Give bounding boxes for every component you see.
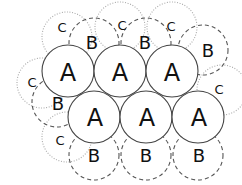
label-b-6: B bbox=[140, 145, 152, 166]
label-b-4: B bbox=[52, 93, 64, 114]
label-a-1: A bbox=[60, 59, 77, 87]
label-a-3: A bbox=[164, 59, 181, 87]
label-c-6: C bbox=[214, 82, 223, 97]
label-a-2: A bbox=[112, 59, 129, 87]
label-c-2: C bbox=[117, 18, 126, 33]
label-a-6: A bbox=[191, 104, 208, 132]
label-c-5: C bbox=[55, 133, 64, 148]
label-c-1: C bbox=[57, 20, 66, 35]
close-packing-diagram: CCCCCCBBBBBBBAAAAAA bbox=[0, 0, 242, 185]
label-b-2: B bbox=[139, 32, 151, 53]
label-a-4: A bbox=[87, 104, 104, 132]
label-c-4: C bbox=[27, 75, 36, 90]
label-c-3: C bbox=[166, 19, 175, 34]
label-b-1: B bbox=[86, 32, 98, 53]
label-b-5: B bbox=[88, 145, 100, 166]
label-a-5: A bbox=[139, 104, 156, 132]
label-b-7: B bbox=[193, 145, 205, 166]
label-b-3: B bbox=[202, 40, 214, 61]
diagram-canvas: CCCCCCBBBBBBBAAAAAA bbox=[0, 0, 242, 185]
